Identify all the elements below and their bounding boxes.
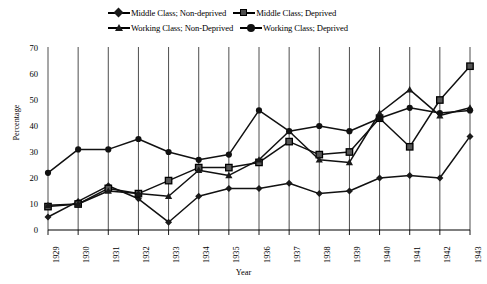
x-tick-label: 1938: [323, 246, 332, 263]
x-tick-label: 1943: [474, 246, 483, 263]
x-tick-label: 1933: [172, 246, 181, 263]
x-tick-label: 1942: [443, 246, 452, 263]
x-tick-label: 1941: [413, 246, 422, 263]
x-tick-label: 1937: [293, 246, 302, 263]
x-axis-title: Year: [0, 268, 487, 277]
x-axis-ticks: 1929193019311932193319341935193619371938…: [0, 0, 487, 284]
x-tick-label: 1932: [142, 246, 151, 263]
x-tick-label: 1934: [202, 246, 211, 263]
line-chart: Middle Class; Non-deprived Middle Class;…: [0, 0, 487, 284]
x-tick-label: 1939: [353, 246, 362, 263]
x-tick-label: 1929: [52, 246, 61, 263]
x-tick-label: 1940: [383, 246, 392, 263]
x-tick-label: 1935: [232, 246, 241, 263]
x-tick-label: 1931: [112, 246, 121, 263]
x-tick-label: 1930: [82, 246, 91, 263]
x-tick-label: 1936: [263, 246, 272, 263]
